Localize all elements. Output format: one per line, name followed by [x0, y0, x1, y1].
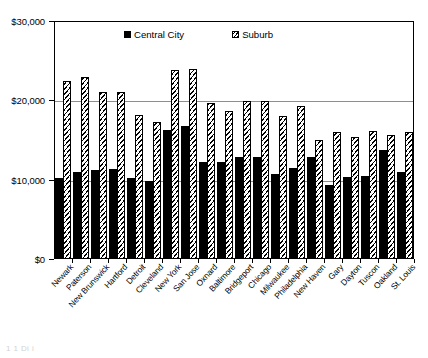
bar-central-city [289, 168, 297, 259]
bar-suburb [63, 81, 71, 259]
bar-central-city [397, 172, 405, 259]
bar-suburb [207, 103, 215, 259]
bar-suburb [297, 106, 305, 259]
chart-legend: Central City Suburb [124, 30, 273, 40]
bar-suburb [243, 101, 251, 259]
hatched-square-icon [232, 31, 239, 38]
bar-central-city [145, 181, 153, 259]
bar-central-city [91, 170, 99, 259]
bar-suburb [333, 132, 341, 259]
legend-label-suburb: Suburb [242, 30, 273, 40]
y-tick-label: $10,000 [11, 174, 45, 185]
caption-remnant: 1 1 Di i [6, 344, 34, 353]
bar-central-city [73, 172, 81, 259]
y-tick-label: $30,000 [11, 16, 45, 27]
bar-central-city [163, 130, 171, 259]
bar-suburb [261, 101, 269, 259]
bar-central-city [181, 126, 189, 259]
x-axis-labels: NewarkPatersonNew BrunswickHartfordDetro… [0, 262, 428, 342]
bar-suburb [189, 69, 197, 259]
bar-central-city [253, 157, 261, 259]
bar-suburb [117, 92, 125, 259]
bar-central-city [307, 157, 315, 259]
bar-suburb [369, 131, 377, 259]
bar-central-city [217, 162, 225, 259]
bar-central-city [55, 178, 63, 259]
bar-central-city [271, 174, 279, 259]
bar-suburb [153, 122, 161, 259]
bar-central-city [109, 169, 117, 259]
bar-suburb [135, 115, 143, 259]
legend-entry-central-city: Central City [124, 30, 184, 40]
bar-chart-figure: $0$10,000$20,000$30,000 NewarkPatersonNe… [0, 0, 428, 358]
bar-central-city [199, 162, 207, 259]
bar-suburb [99, 92, 107, 259]
bar-suburb [387, 135, 395, 259]
bar-suburb [279, 116, 287, 259]
bar-central-city [127, 178, 135, 259]
bar-central-city [325, 185, 333, 259]
bar-suburb [315, 140, 323, 259]
bar-suburb [171, 70, 179, 259]
bar-central-city [343, 177, 351, 259]
bar-suburb [405, 132, 413, 259]
bar-suburb [351, 137, 359, 259]
filled-square-icon [124, 31, 131, 38]
bar-suburb [81, 77, 89, 259]
bar-suburb [225, 111, 233, 259]
bars-layer [54, 21, 414, 259]
y-tick-label: $20,000 [11, 95, 45, 106]
bar-central-city [379, 150, 387, 259]
legend-label-central-city: Central City [134, 30, 184, 40]
legend-entry-suburb: Suburb [232, 30, 273, 40]
bar-central-city [361, 176, 369, 259]
bar-central-city [235, 157, 243, 259]
